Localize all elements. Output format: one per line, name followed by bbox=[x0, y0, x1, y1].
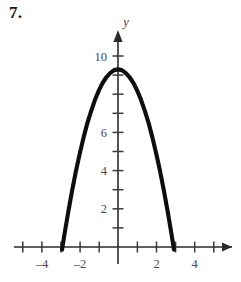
figure-container: 7. bbox=[0, 0, 241, 282]
y-tick-label: 10 bbox=[95, 50, 108, 64]
x-axis-arrow-icon bbox=[222, 243, 232, 252]
y-axis-name-label: y bbox=[121, 15, 129, 29]
x-axis-tick-labels: –4 –2 2 4 bbox=[35, 257, 199, 271]
parabola-plot: –4 –2 2 4 2 4 6 10 y bbox=[0, 0, 241, 282]
y-tick-label: 4 bbox=[101, 164, 108, 178]
y-tick-label: 6 bbox=[101, 126, 107, 140]
y-tick-label: 2 bbox=[101, 202, 107, 216]
y-axis-tick-labels: 2 4 6 10 bbox=[95, 50, 108, 217]
y-axis-arrow-icon bbox=[113, 30, 122, 42]
x-tick-label: –2 bbox=[73, 257, 87, 271]
x-tick-label: 4 bbox=[192, 257, 199, 271]
y-axis-group bbox=[113, 30, 122, 264]
x-tick-label: 2 bbox=[153, 257, 159, 271]
x-axis-group bbox=[14, 243, 232, 252]
x-tick-label: –4 bbox=[35, 257, 49, 271]
